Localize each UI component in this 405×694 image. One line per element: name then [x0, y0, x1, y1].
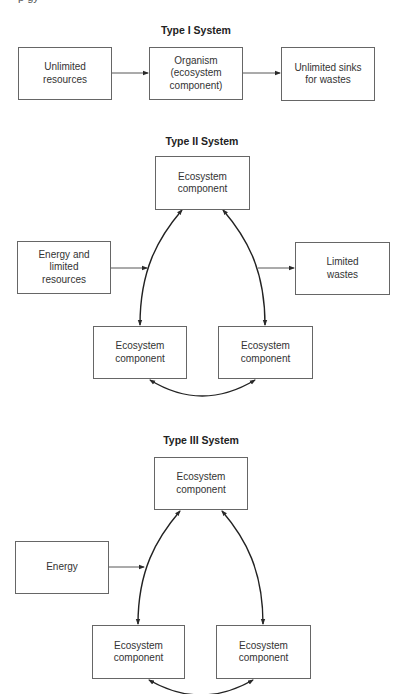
node-label-line: wastes: [326, 269, 358, 282]
node-label-line: component: [239, 652, 288, 665]
node-organism: Organism(ecosystemcomponent): [149, 47, 243, 100]
node-label-line: Ecosystem: [115, 340, 164, 353]
node-label-line: Ecosystem: [241, 340, 290, 353]
node-limited-wastes: Limitedwastes: [295, 242, 390, 295]
arc-top-bottom-left: [138, 511, 180, 624]
node-type3-bottom-left-component: Ecosystemcomponent: [92, 625, 185, 679]
node-label-line: Energy: [46, 561, 78, 574]
node-label-line: Ecosystem: [176, 471, 225, 484]
type3-title: Type III System: [163, 434, 239, 446]
node-label-line: Ecosystem: [114, 640, 163, 653]
node-type2-bottom-right-component: Ecosystemcomponent: [218, 326, 313, 379]
node-energy-limited-resources: Energy andlimitedresources: [17, 241, 111, 294]
node-label-line: component: [241, 353, 290, 366]
node-type2-bottom-left-component: Ecosystemcomponent: [93, 326, 187, 379]
node-label-line: component: [176, 484, 225, 497]
arc-top-bottom-right: [223, 210, 265, 325]
clipped-header-fragment: p gy: [18, 0, 39, 3]
node-label-line: Unlimited sinks: [294, 62, 361, 75]
node-label-line: Limited: [326, 256, 358, 269]
arc-top-bottom-right: [222, 511, 263, 624]
node-label-line: component): [170, 80, 223, 93]
node-label-line: component: [114, 652, 163, 665]
node-label-line: Unlimited: [43, 61, 87, 74]
node-label-line: resources: [38, 274, 89, 287]
node-energy: Energy: [15, 541, 109, 594]
node-type3-bottom-right-component: Ecosystemcomponent: [216, 625, 311, 679]
node-unlimited-sinks: Unlimited sinksfor wastes: [281, 47, 375, 101]
node-label-line: Organism: [170, 55, 223, 68]
node-label-line: (ecosystem: [170, 67, 223, 80]
node-label-line: resources: [43, 74, 87, 87]
node-label-line: component: [115, 353, 164, 366]
node-label-line: Energy and: [38, 249, 89, 262]
arc-bottom-left-bottom-right: [149, 680, 253, 694]
type2-title: Type II System: [166, 135, 239, 147]
type1-title: Type I System: [161, 24, 231, 36]
node-label-line: for wastes: [294, 74, 361, 87]
node-label-line: Ecosystem: [239, 640, 288, 653]
node-label-line: limited: [38, 261, 89, 274]
arc-bottom-left-bottom-right: [150, 380, 255, 396]
arc-top-bottom-left: [140, 210, 182, 325]
node-type2-top-component: Ecosystemcomponent: [155, 156, 250, 210]
node-label-line: component: [178, 183, 227, 196]
node-label-line: Ecosystem: [178, 171, 227, 184]
node-unlimited-resources: Unlimitedresources: [18, 47, 112, 100]
node-type3-top-component: Ecosystemcomponent: [154, 457, 248, 510]
